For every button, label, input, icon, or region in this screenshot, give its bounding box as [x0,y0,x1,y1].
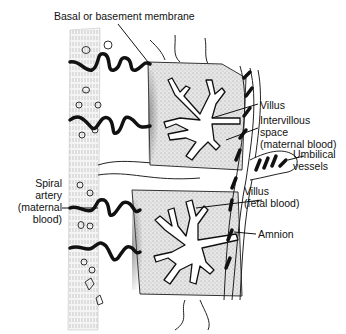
umbilical-cord [250,151,297,180]
label-intervillous-space: Intervillous space (maternal blood) [260,114,336,150]
label-amnion: Amnion [258,228,294,240]
label-umbilical-vessels: Umbilical vessels [293,148,336,172]
label-villus-top: Villus [260,99,285,111]
label-villus-fetal-blood: Villus (fetal blood) [244,185,299,209]
label-basal-membrane: Basal or basement membrane [54,10,195,22]
decidua-wall [68,28,112,330]
label-spiral-artery: Spiral artery (maternal blood) [4,177,62,225]
